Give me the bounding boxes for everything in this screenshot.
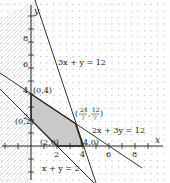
y-axis-label: y <box>33 6 40 16</box>
label-x-plus-y-2: x + y = 2 <box>42 164 80 173</box>
x-tick-6: 6 <box>106 150 111 159</box>
x-tick-2: 2 <box>54 150 59 159</box>
label-point-0-4: (0,4) <box>33 86 52 95</box>
label-point-0-2: (0,2) <box>15 117 34 126</box>
label-2x-plus-3y-12: 2x + 3y = 12 <box>92 126 145 135</box>
x-axis-label: x <box>155 135 160 145</box>
label-point-2-0: (2,0) <box>40 138 59 147</box>
x-tick-4: 4 <box>80 150 85 159</box>
label-point-4-0: (4,0) <box>80 138 99 147</box>
svg-text:(: ( <box>75 109 78 118</box>
svg-text:7: 7 <box>81 114 85 121</box>
svg-text:24: 24 <box>80 106 88 113</box>
linear-programming-graph: y x 8 6 4 2 2 4 6 8 (0,4) (0,2) (2,0) (4… <box>0 0 170 183</box>
y-tick-8: 8 <box>23 34 28 43</box>
x-tick-8: 8 <box>132 150 137 159</box>
svg-text:7: 7 <box>93 114 97 121</box>
svg-text:12: 12 <box>92 106 100 113</box>
y-tick-6: 6 <box>23 60 28 69</box>
label-3x-plus-y-12: 3x + y = 12 <box>58 58 106 67</box>
y-tick-4: 4 <box>23 86 28 95</box>
svg-text:): ) <box>100 109 103 118</box>
svg-text:,: , <box>88 109 91 118</box>
